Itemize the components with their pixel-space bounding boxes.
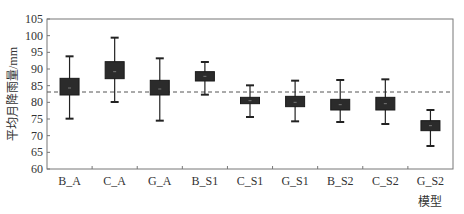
x-axis-title: 模型	[418, 195, 442, 209]
y-tick-label: 95	[31, 45, 43, 59]
x-tick-label: C_A	[103, 174, 126, 188]
box-b-a	[60, 56, 79, 118]
box-g-a	[150, 58, 169, 120]
y-tick-label: 70	[31, 129, 43, 143]
y-axis-ticks: 6065707580859095100105	[25, 12, 50, 176]
x-tick-label: B_A	[58, 174, 81, 188]
x-tick-label: C_S2	[372, 174, 399, 188]
y-axis-title: 平均月降雨量/mm	[6, 46, 20, 141]
y-tick-label: 65	[31, 145, 43, 159]
box-c-s2	[376, 79, 395, 124]
box-c-a	[105, 38, 124, 102]
box-b-s2	[331, 80, 350, 122]
y-tick-label: 105	[25, 12, 43, 26]
y-tick-label: 85	[31, 79, 43, 93]
box-plot-chart: 6065707580859095100105 B_AC_AG_AB_S1C_S1…	[0, 0, 464, 214]
y-tick-label: 100	[25, 29, 43, 43]
y-tick-label: 75	[31, 112, 43, 126]
x-tick-label: B_S2	[327, 174, 354, 188]
x-tick-label: G_S1	[281, 174, 308, 188]
x-tick-label: G_S2	[417, 174, 444, 188]
box-c-s1	[241, 85, 260, 117]
y-tick-label: 60	[31, 162, 43, 176]
y-tick-label: 90	[31, 62, 43, 76]
box-g-s1	[286, 81, 305, 122]
x-tick-label: C_S1	[237, 174, 264, 188]
x-tick-label: B_S1	[192, 174, 219, 188]
box-g-s2	[421, 110, 440, 146]
y-tick-label: 80	[31, 95, 43, 109]
box-b-s1	[195, 62, 214, 95]
x-tick-label: G_A	[148, 174, 172, 188]
